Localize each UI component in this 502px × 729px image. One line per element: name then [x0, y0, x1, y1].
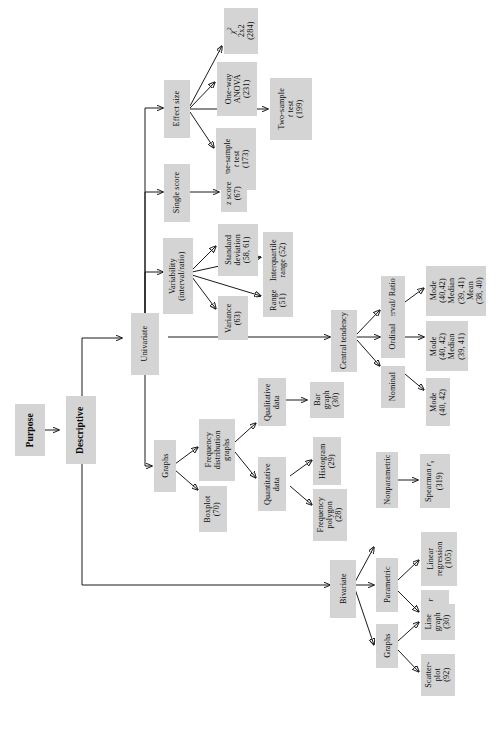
node-boxplot[interactable]: Boxplot (70) [199, 486, 227, 532]
node-descriptive[interactable]: Descriptive [66, 396, 96, 464]
node-histogram-label: Histogram (29) [318, 443, 336, 478]
node-range-label: Range (51) [269, 289, 287, 310]
node-z-score-label: z score (67) [225, 181, 243, 204]
node-ordinal[interactable]: Ordinal [381, 316, 405, 358]
node-univariate-label: Univariate [140, 326, 149, 362]
node-frequency-distribution-graphs[interactable]: Frequency distribution graphs [199, 419, 235, 481]
node-range[interactable]: Range (51) [263, 283, 293, 317]
node-central-tendency[interactable]: Central tendency [331, 310, 357, 372]
node-univariate[interactable]: Univariate [131, 313, 159, 375]
node-variance[interactable]: Variance (63) [218, 296, 248, 340]
node-graphs-univariate-label: Graphs [160, 454, 169, 478]
node-scatterplot[interactable]: Scatter- plot (92) [421, 654, 455, 696]
node-spearman-rs-label: Spearman rs (319) [425, 460, 445, 501]
node-two-sample-t-test[interactable]: Two-sample t test (199) [270, 78, 312, 140]
node-interquartile-range[interactable]: Interquartile range (52) [263, 232, 293, 288]
node-bivariate-label: Bivariate [338, 574, 347, 605]
node-graphs-univariate[interactable]: Graphs [154, 440, 176, 492]
node-frequency-polygon[interactable]: Frequency polygon (28) [313, 489, 347, 541]
node-central-tendency-label: Central tendency [339, 312, 348, 369]
node-linear-regression-label: Linear regression (105) [425, 542, 453, 577]
node-graphs-bivariate[interactable]: Graphs [376, 624, 398, 668]
node-descriptive-label: Descriptive [76, 406, 87, 453]
node-effect-size-label: Effect size [172, 91, 181, 127]
node-variability-label: Variability (interval/ratio) [169, 251, 187, 300]
node-line-graph[interactable]: Line graph (30) [421, 604, 455, 640]
node-variability[interactable]: Variability (interval/ratio) [163, 238, 193, 314]
node-qualitative-data-label: Qualitative data [263, 383, 281, 420]
node-effect-size[interactable]: Effect size [164, 80, 190, 138]
node-nonparametric[interactable]: Nonparametric [376, 452, 398, 508]
node-nominal[interactable]: Nominal [381, 366, 405, 408]
node-interval-ratio-stats[interactable]: Mode (40,42) Median (39, 41) Mean (38, 4… [426, 266, 486, 316]
node-chi-square-2x2-label: χ2 2x2 (284) [226, 22, 255, 40]
node-variance-label: Variance (63) [224, 303, 242, 332]
node-ordinal-stats[interactable]: Mode (40, 42) Median (39, 41) [426, 321, 468, 371]
node-histogram[interactable]: Histogram (29) [313, 437, 341, 485]
node-scatterplot-label: Scatter- plot (92) [424, 662, 452, 688]
node-purpose[interactable]: Purpose [15, 404, 45, 456]
node-interval-ratio-stats-label: Mode (40,42) Median (39, 41) Mean (38, 4… [428, 278, 483, 305]
node-purpose-label: Purpose [25, 413, 36, 447]
node-single-score-label: Single score [172, 172, 181, 213]
flowchart-canvas: Purpose Descriptive Univariate Bivariate… [0, 0, 502, 729]
node-nominal-stats[interactable]: Mode (40, 42) [426, 378, 450, 426]
node-one-way-anova[interactable]: One-way ANOVA (231) [217, 62, 257, 116]
node-bar-graph-label: Bar graph (30) [313, 390, 341, 409]
node-quantitative-data[interactable]: Quantitative data [258, 457, 286, 511]
node-frequency-distribution-graphs-label: Frequency distribution graphs [203, 431, 231, 470]
node-two-sample-t-test-label: Two-sample t test (199) [277, 88, 305, 129]
node-frequency-polygon-label: Frequency polygon (28) [316, 497, 344, 532]
node-standard-deviation[interactable]: Standard deviation (58, 61) [218, 224, 258, 276]
node-z-score[interactable]: z score (67) [221, 174, 247, 212]
node-parametric[interactable]: Parametric [376, 558, 398, 612]
node-quantitative-data-label: Quantitative data [263, 463, 281, 505]
node-line-graph-label: Line graph (30) [424, 612, 452, 631]
node-interquartile-range-label: Interquartile range (52) [269, 239, 287, 281]
node-ordinal-stats-label: Mode (40, 42) Median (39, 41) [429, 333, 466, 360]
node-nominal-stats-label: Mode (40, 42) [429, 389, 447, 416]
node-qualitative-data[interactable]: Qualitative data [258, 378, 286, 426]
node-bivariate[interactable]: Bivariate [330, 560, 356, 618]
node-spearman-rs[interactable]: Spearman rs (319) [420, 454, 450, 508]
node-nominal-label: Nominal [388, 372, 397, 401]
node-one-way-anova-label: One-way ANOVA (231) [223, 74, 251, 105]
node-nonparametric-label: Nonparametric [382, 455, 391, 505]
node-boxplot-label: Boxplot (70) [204, 495, 222, 522]
node-ordinal-label: Ordinal [388, 324, 397, 350]
node-single-score[interactable]: Single score [164, 164, 190, 222]
node-linear-regression[interactable]: Linear regression (105) [421, 532, 457, 586]
node-graphs-bivariate-label: Graphs [382, 634, 391, 658]
node-standard-deviation-label: Standard deviation (58, 61) [224, 234, 252, 265]
node-parametric-label: Parametric [382, 567, 391, 603]
node-bar-graph[interactable]: Bar graph (30) [310, 382, 344, 418]
node-chi-square-2x2[interactable]: χ2 2x2 (284) [224, 8, 258, 54]
